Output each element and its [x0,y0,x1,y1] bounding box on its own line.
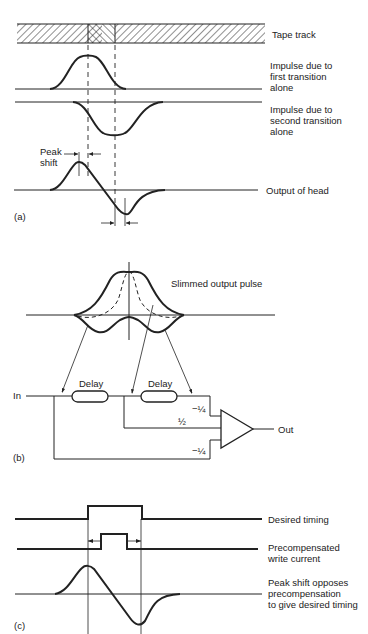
label-impulse-first: Impulse due to first transition alone [270,60,332,93]
summing-amplifier [221,410,253,448]
panel-c-tag: (c) [14,620,25,631]
label-peak-opposes: Peak shift opposes precompensation to gi… [268,577,358,610]
label-output-of-head: Output of head [266,185,329,196]
label-impulse-second: Impulse due to second transition alone [270,104,342,137]
output-curve [50,162,165,214]
delay-element-1 [72,391,108,402]
coef-top: −¼ [192,403,205,414]
panel-b-tag: (b) [13,452,25,463]
desired-timing-waveform [15,506,262,519]
coef-bot: −¼ [192,445,205,456]
label-tape-track: Tape track [272,29,316,40]
label-precomp: Precompensated write current [268,542,340,564]
tape-track [17,24,265,43]
diagram-canvas [0,0,368,634]
label-out: Out [278,424,293,435]
impulse-second-curve [73,102,163,135]
peak-shift-output-curve [55,566,180,625]
label-slimmed-output: Slimmed output pulse [171,278,262,289]
label-desired-timing: Desired timing [268,514,329,525]
label-delay-1: Delay [79,378,103,389]
coef-mid: ½ [178,416,186,427]
delay-element-2 [141,391,177,402]
panel-a-tag: (a) [14,211,26,222]
label-delay-2: Delay [148,378,172,389]
label-peak-shift: Peak shift [40,146,62,168]
label-in: In [13,390,21,401]
